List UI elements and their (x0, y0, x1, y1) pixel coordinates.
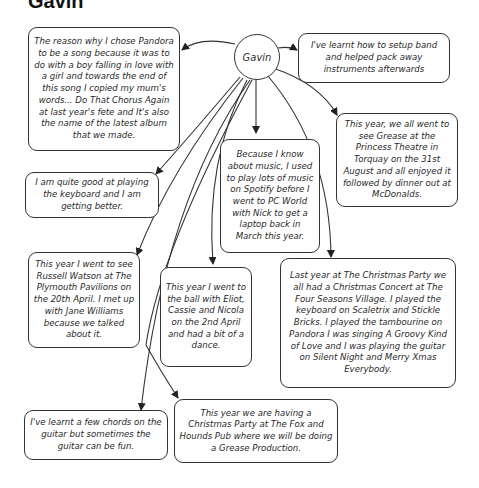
node-foxhounds[interactable]: This year we are having a Christmas Part… (174, 399, 338, 463)
node-grease[interactable]: This year, we all went to see Grease at … (336, 113, 458, 207)
link-to-pandora (182, 41, 235, 50)
node-ball[interactable]: This year I went to the ball with Eliot,… (160, 267, 252, 367)
center-node-gavin[interactable]: Gavin (234, 34, 280, 80)
node-text: I've learnt a few chords on the guitar b… (29, 417, 163, 452)
node-setup[interactable]: I've learnt how to setup band and helped… (298, 33, 450, 83)
node-text: This year, we all went to see Grease at … (341, 119, 453, 201)
node-text: This year I went to see Russell Watson a… (33, 259, 135, 341)
node-russell[interactable]: This year I went to see Russell Watson a… (28, 252, 140, 348)
node-text: The reason why I chose Pandora to be a s… (33, 36, 175, 141)
center-node-label: Gavin (243, 52, 272, 63)
node-keyboard[interactable]: I am quite good at playing the keyboard … (25, 172, 159, 218)
node-text: I've learnt how to setup band and helped… (303, 40, 445, 75)
link-to-setup (278, 47, 297, 50)
node-text: I am quite good at playing the keyboard … (30, 177, 154, 212)
node-pandora[interactable]: The reason why I chose Pandora to be a s… (28, 27, 180, 151)
node-guitar[interactable]: I've learnt a few chords on the guitar b… (24, 410, 168, 460)
node-text: Because I know about music, I used to pl… (225, 149, 315, 243)
node-christmas[interactable]: Last year at The Christmas Party we all … (280, 258, 456, 388)
node-music[interactable]: Because I know about music, I used to pl… (220, 139, 320, 253)
node-text: This year we are having a Christmas Part… (179, 408, 333, 455)
node-text: This year I went to the ball with Eliot,… (165, 282, 247, 352)
node-text: Last year at The Christmas Party we all … (285, 270, 451, 375)
